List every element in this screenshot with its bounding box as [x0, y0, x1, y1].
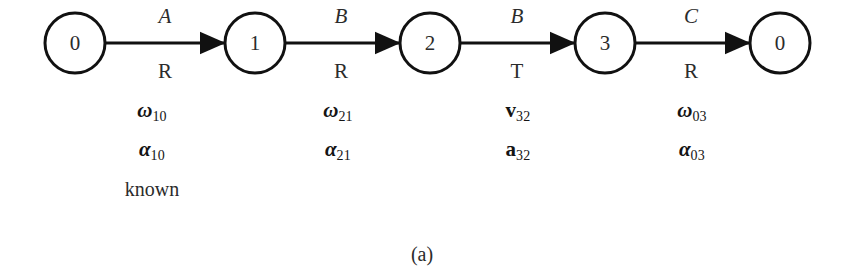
variable-line-vars-32-1: a32	[506, 133, 531, 172]
node-label-n3: 3	[600, 31, 611, 56]
edge-label-bottom-e2: T	[511, 59, 524, 84]
variable-column-vars-03: ω03α03	[677, 94, 707, 172]
variable-symbol: ω	[677, 98, 692, 122]
figure-container: 01230 ARBRBTCR ω10α10knownω21α21v32a32ω0…	[0, 0, 844, 278]
variable-symbol: ω	[137, 98, 152, 122]
edge-label-top-e2: B	[511, 4, 524, 29]
edge-label-bottom-e0: R	[158, 59, 172, 84]
node-label-n1: 1	[250, 31, 261, 56]
variable-line-vars-21-0: ω21	[323, 94, 353, 133]
graph-canvas	[0, 0, 844, 278]
variable-symbol: α	[139, 137, 151, 161]
variable-column-vars-21: ω21α21	[323, 94, 353, 172]
variable-subscript: 10	[152, 109, 166, 124]
figure-caption: (a)	[411, 243, 433, 266]
node-label-n2: 2	[425, 31, 436, 56]
variable-symbol: α	[325, 137, 337, 161]
variable-line-vars-21-1: α21	[323, 133, 353, 172]
variable-subscript: 03	[691, 148, 705, 163]
variable-symbol: v	[506, 98, 517, 122]
variable-line-vars-10-0: ω10	[137, 94, 167, 133]
variable-subscript: 32	[516, 148, 530, 163]
variable-subscript: 21	[337, 148, 351, 163]
node-label-n0b: 0	[775, 31, 786, 56]
variable-subscript: 10	[151, 148, 165, 163]
variable-symbol: ω	[323, 98, 338, 122]
variable-column-vars-32: v32a32	[506, 94, 531, 172]
variable-line-vars-03-1: α03	[677, 133, 707, 172]
edge-label-bottom-e3: R	[684, 59, 698, 84]
variable-line-vars-32-0: v32	[506, 94, 531, 133]
variable-line-vars-03-0: ω03	[677, 94, 707, 133]
variable-symbol: α	[679, 137, 691, 161]
edge-label-top-e1: B	[335, 4, 348, 29]
variable-column-vars-10: ω10α10	[137, 94, 167, 172]
variable-note-vars-10: known	[125, 178, 179, 201]
edge-label-top-e3: C	[684, 4, 698, 29]
variable-line-vars-10-1: α10	[137, 133, 167, 172]
variable-subscript: 32	[516, 109, 530, 124]
edge-label-bottom-e1: R	[334, 59, 348, 84]
variable-subscript: 03	[692, 109, 706, 124]
variable-subscript: 21	[338, 109, 352, 124]
edge-label-top-e0: A	[159, 4, 172, 29]
node-label-n0a: 0	[70, 31, 81, 56]
variable-symbol: a	[506, 137, 517, 161]
